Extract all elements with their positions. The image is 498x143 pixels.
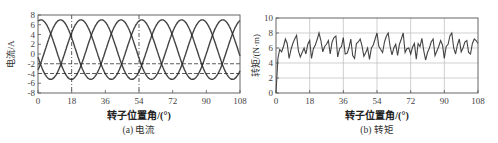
y-tick-label: 8 [269,28,274,38]
y-tick-label: -2 [28,59,36,69]
y-tick-label: 2 [31,39,36,49]
y-tick-label: -6 [28,78,36,88]
torque-chart: 018365472901080246810转子位置角/(°)(b) 转矩转矩/(… [249,0,498,143]
y-axis-label: 电流/A [5,40,16,68]
y-tick-label: 2 [269,73,274,83]
x-axis-label: 转子位置角/(°) [107,109,170,122]
x-tick-label: 0 [36,96,41,106]
y-axis-label: 转矩/(N·m) [250,34,261,77]
current-chart-panel: 01836547290108-8-6-4-202468转子位置角/(°)(a) … [0,0,249,143]
y-tick-label: 4 [269,58,274,68]
y-tick-label: 4 [31,30,36,40]
chart-caption: (b) 转矩 [360,124,393,136]
x-tick-label: 90 [202,96,212,106]
x-tick-label: 18 [67,96,77,106]
x-tick-label: 54 [135,96,145,106]
y-tick-label: -4 [28,69,36,79]
y-tick-label: 6 [269,43,274,53]
torque-chart-panel: 018365472901080246810转子位置角/(°)(b) 转矩转矩/(… [249,0,498,143]
x-axis-label: 转子位置角/(°) [345,109,408,122]
y-tick-label: 0 [31,49,36,59]
y-tick-label: 0 [269,88,274,98]
y-tick-label: -8 [28,88,36,98]
x-tick-label: 72 [406,96,415,106]
x-tick-label: 90 [440,96,450,106]
x-tick-label: 54 [373,96,383,106]
x-tick-label: 0 [274,96,279,106]
x-tick-label: 108 [471,96,485,106]
x-tick-label: 72 [168,96,177,106]
y-tick-label: 10 [264,13,274,23]
x-tick-label: 36 [101,96,111,106]
x-tick-label: 18 [305,96,315,106]
x-tick-label: 108 [233,96,247,106]
y-tick-label: 6 [31,20,36,30]
x-tick-label: 36 [339,96,349,106]
chart-caption: (a) 电流 [123,124,156,136]
y-tick-label: 8 [31,10,36,20]
current-chart: 01836547290108-8-6-4-202468转子位置角/(°)(a) … [0,0,249,143]
